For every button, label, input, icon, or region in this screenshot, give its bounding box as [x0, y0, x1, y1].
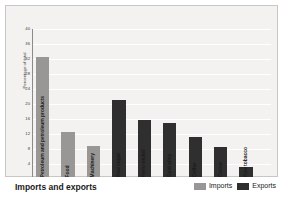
x-axis-category-label: Coffee [192, 162, 197, 177]
chart-title: Imports and exports [15, 182, 97, 192]
y-axis-tick: 40 [14, 27, 30, 31]
y-axis-title: Percentage of total [22, 36, 27, 106]
y-axis-tick: 4 [14, 162, 30, 166]
legend-swatch-imports-icon [194, 183, 206, 190]
chart-footer: Imports and exports Imports Exports [5, 177, 278, 199]
x-axis-category-label: Food [65, 165, 70, 177]
legend-swatch-exports-icon [237, 183, 249, 190]
legend-label-exports: Exports [252, 182, 276, 190]
chart-legend: Imports Exports [194, 182, 276, 190]
x-axis-category-label: Ferro-nickel [142, 149, 147, 177]
bar-group: Ferro-nickel [138, 29, 151, 179]
x-axis-category-label: Raw sugar [116, 152, 121, 177]
legend-item-imports: Imports [194, 182, 232, 190]
bar-group: Food [61, 29, 74, 179]
bar-group: Machinery [87, 29, 100, 179]
bar-group: Raw tobacco [239, 29, 252, 179]
y-axis-tick: 8 [14, 147, 30, 151]
x-axis-category-label: Petroleum and petroleum products [40, 96, 45, 177]
legend-item-exports: Exports [237, 182, 276, 190]
bar-group: Coffee [189, 29, 202, 179]
bar-group: Cocoa [214, 29, 227, 179]
x-axis-category-label: Gold alloy [167, 153, 172, 177]
y-axis-tick: 12 [14, 132, 30, 136]
bar-group: Petroleum and petroleum products [36, 29, 49, 179]
x-axis-category-label: Raw tobacco [243, 147, 248, 177]
y-axis-tick: 16 [14, 117, 30, 121]
x-axis-category-label: Machinery [91, 153, 96, 177]
chart-plot-frame: 4036322824201612840 Percentage of total … [5, 5, 278, 177]
chart-bars: Petroleum and petroleum productsFoodMach… [33, 29, 277, 179]
legend-label-imports: Imports [209, 182, 232, 190]
chart-screenshot: 4036322824201612840 Percentage of total … [0, 0, 283, 204]
bar-group: Gold alloy [163, 29, 176, 179]
bar-group: Raw sugar [112, 29, 125, 179]
x-axis-category-label: Cocoa [218, 162, 223, 177]
